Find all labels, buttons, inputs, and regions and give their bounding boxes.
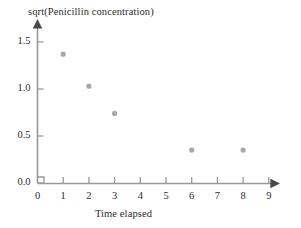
- x-tick-label: 0: [29, 190, 47, 201]
- data-point: [189, 148, 194, 153]
- data-point: [241, 148, 246, 153]
- data-point: [61, 52, 66, 57]
- y-axis-title: sqrt(Penicillin concentration): [28, 6, 154, 17]
- y-tick-label: 1.5: [5, 35, 31, 46]
- x-tick-label: 8: [234, 190, 252, 201]
- x-axis-title: Time elapsed: [0, 208, 247, 219]
- data-point-group: [61, 52, 246, 153]
- x-tick-label: 2: [80, 190, 98, 201]
- x-tick-label: 3: [106, 190, 124, 201]
- x-tick-label: 5: [157, 190, 175, 201]
- x-tick-label: 6: [183, 190, 201, 201]
- x-tick-label: 4: [131, 190, 149, 201]
- data-point: [112, 111, 117, 116]
- x-tick-label: 1: [54, 190, 72, 201]
- x-tick-label: 7: [208, 190, 226, 201]
- x-axis-ticks: [63, 177, 269, 183]
- y-tick-label: 0.5: [5, 129, 31, 140]
- scatter-plot-figure: sqrt(Penicillin concentration) Time elap…: [0, 0, 301, 228]
- data-point: [86, 84, 91, 89]
- y-tick-label: 0.0: [5, 176, 31, 187]
- y-axis-ticks: [38, 42, 44, 183]
- x-tick-label: 9: [260, 190, 278, 201]
- y-tick-label: 1.0: [5, 82, 31, 93]
